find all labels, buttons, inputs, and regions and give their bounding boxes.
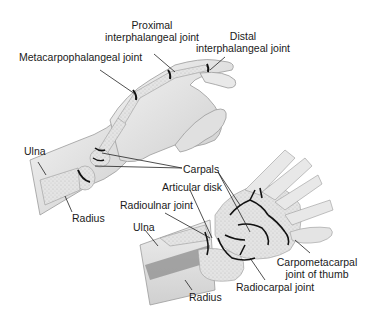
label-radiocarpal-joint: Radiocarpal joint	[236, 281, 314, 293]
label-ulna-lower: Ulna	[133, 221, 155, 233]
label-ulna-upper: Ulna	[24, 145, 46, 157]
label-line: interphalangeal joint	[183, 42, 303, 54]
label-carpometacarpal-joint-of-thumb: Carpometacarpal joint of thumb	[272, 256, 362, 280]
label-radius-upper: Radius	[72, 212, 105, 224]
label-radius-lower: Radius	[189, 291, 222, 303]
label-articular-disk: Articular disk	[162, 181, 222, 193]
label-line: joint of thumb	[272, 268, 362, 280]
label-line: Distal	[183, 30, 303, 42]
label-radioulnar-joint: Radioulnar joint	[120, 199, 193, 211]
label-metacarpophalangeal-joint: Metacarpophalangeal joint	[19, 51, 142, 63]
label-distal-interphalangeal-joint: Distal interphalangeal joint	[183, 30, 303, 54]
label-carpals: Carpals	[183, 163, 219, 175]
label-line: Carpometacarpal	[272, 256, 362, 268]
